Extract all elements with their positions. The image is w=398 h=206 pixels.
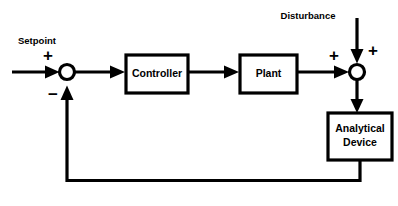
analytical-device-label-line-1: Analytical bbox=[335, 122, 385, 134]
arrowhead-disturbance bbox=[351, 49, 364, 64]
control-loop-diagram: + − + + Controller Plant Analytical Devi… bbox=[0, 0, 398, 206]
signal-plant-output bbox=[297, 66, 349, 79]
output-summer-circle bbox=[350, 65, 365, 80]
block-analytical-device[interactable]: Analytical Device bbox=[328, 113, 392, 160]
block-controller[interactable]: Controller bbox=[126, 55, 188, 93]
setpoint-label: Setpoint bbox=[18, 35, 57, 46]
controller-label: Controller bbox=[132, 67, 182, 79]
sign-plant-output-plus: + bbox=[329, 46, 339, 65]
analytical-device-label-line-2: Device bbox=[343, 136, 377, 148]
sign-feedback-minus: − bbox=[48, 85, 58, 104]
arrowhead-process-output bbox=[351, 99, 364, 113]
arrowhead-feedback bbox=[61, 86, 74, 101]
arrowhead-control bbox=[224, 66, 239, 79]
plant-label: Plant bbox=[256, 67, 282, 79]
signal-feedback-signal bbox=[61, 86, 361, 181]
block-diagram-canvas: + − + + Controller Plant Analytical Devi… bbox=[0, 0, 398, 206]
signal-setpoint-input bbox=[12, 66, 60, 79]
disturbance-label: Disturbance bbox=[281, 10, 336, 21]
signal-error-signal bbox=[75, 66, 126, 79]
sign-setpoint-plus: + bbox=[43, 46, 53, 65]
sign-disturbance-plus: + bbox=[368, 41, 378, 60]
signal-process-output bbox=[351, 80, 364, 114]
arrowhead-setpoint bbox=[45, 66, 60, 79]
arrowhead-error bbox=[110, 66, 125, 79]
arrowhead-plant-output bbox=[334, 66, 349, 79]
error-summer-circle bbox=[60, 65, 75, 80]
block-plant[interactable]: Plant bbox=[240, 55, 297, 93]
signal-disturbance-input bbox=[351, 18, 364, 64]
signal-control-signal bbox=[188, 66, 239, 79]
